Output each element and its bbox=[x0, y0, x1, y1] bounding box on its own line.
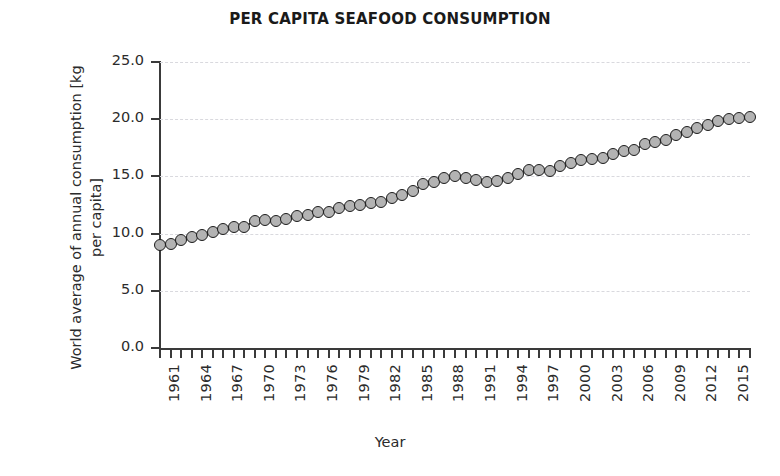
chart-figure: PER CAPITA SEAFOOD CONSUMPTION World ave… bbox=[0, 0, 780, 476]
x-tick-mark bbox=[717, 350, 719, 358]
x-tick-mark bbox=[654, 350, 656, 358]
x-tick-mark bbox=[591, 350, 593, 358]
x-tick-mark bbox=[612, 350, 614, 358]
x-tick-mark bbox=[191, 350, 193, 358]
y-tick-label: 25.0 bbox=[88, 52, 144, 68]
x-tick-mark bbox=[749, 350, 751, 358]
y-tick-label: 20.0 bbox=[88, 109, 144, 125]
x-tick-mark bbox=[433, 350, 435, 358]
x-tick-mark bbox=[623, 350, 625, 358]
x-tick-mark bbox=[602, 350, 604, 358]
x-tick-mark bbox=[549, 350, 551, 358]
x-tick-mark bbox=[170, 350, 172, 358]
x-tick-mark bbox=[359, 350, 361, 358]
x-tick-mark bbox=[212, 350, 214, 358]
y-tick-label: 0.0 bbox=[88, 338, 144, 354]
x-tick-label: 1994 bbox=[514, 364, 530, 402]
x-tick-mark bbox=[328, 350, 330, 358]
x-tick-mark bbox=[380, 350, 382, 358]
x-tick-mark bbox=[296, 350, 298, 358]
data-point bbox=[744, 111, 756, 123]
y-tick-mark bbox=[151, 290, 160, 292]
x-tick-label: 1973 bbox=[292, 364, 308, 402]
x-tick-label: 1985 bbox=[419, 364, 435, 402]
x-tick-mark bbox=[686, 350, 688, 358]
x-tick-mark bbox=[528, 350, 530, 358]
x-tick-mark bbox=[222, 350, 224, 358]
plot-area bbox=[160, 62, 750, 348]
x-tick-label: 1976 bbox=[324, 364, 340, 402]
x-tick-mark bbox=[507, 350, 509, 358]
x-tick-mark bbox=[644, 350, 646, 358]
x-tick-mark bbox=[243, 350, 245, 358]
x-tick-mark bbox=[391, 350, 393, 358]
x-tick-mark bbox=[675, 350, 677, 358]
x-tick-mark bbox=[496, 350, 498, 358]
x-tick-mark bbox=[570, 350, 572, 358]
x-tick-mark bbox=[159, 350, 161, 358]
x-tick-mark bbox=[696, 350, 698, 358]
y-tick-mark bbox=[151, 118, 160, 120]
x-tick-label: 2006 bbox=[640, 364, 656, 402]
y-tick-mark bbox=[151, 233, 160, 235]
x-tick-mark bbox=[338, 350, 340, 358]
x-tick-label: 2015 bbox=[735, 364, 751, 402]
x-tick-label: 1979 bbox=[356, 364, 372, 402]
x-tick-mark bbox=[559, 350, 561, 358]
x-tick-mark bbox=[728, 350, 730, 358]
x-tick-mark bbox=[285, 350, 287, 358]
x-tick-label: 1988 bbox=[450, 364, 466, 402]
x-tick-label: 1967 bbox=[229, 364, 245, 402]
y-tick-label: 15.0 bbox=[88, 166, 144, 182]
x-tick-label: 1991 bbox=[482, 364, 498, 402]
x-tick-mark bbox=[486, 350, 488, 358]
series-line bbox=[160, 62, 750, 348]
x-tick-mark bbox=[201, 350, 203, 358]
x-tick-label: 2009 bbox=[672, 364, 688, 402]
x-tick-label: 1964 bbox=[198, 364, 214, 402]
y-tick-label: 5.0 bbox=[88, 281, 144, 297]
y-tick-mark bbox=[151, 175, 160, 177]
x-tick-mark bbox=[180, 350, 182, 358]
x-tick-label: 2012 bbox=[703, 364, 719, 402]
x-tick-mark bbox=[738, 350, 740, 358]
x-tick-label: 1997 bbox=[545, 364, 561, 402]
x-tick-mark bbox=[443, 350, 445, 358]
x-tick-mark bbox=[349, 350, 351, 358]
y-axis-tick-labels: 0.05.010.015.020.025.0 bbox=[88, 0, 144, 476]
x-tick-mark bbox=[580, 350, 582, 358]
x-tick-mark bbox=[317, 350, 319, 358]
x-axis-title: Year bbox=[0, 434, 780, 450]
y-tick-mark bbox=[151, 347, 160, 349]
x-tick-label: 1961 bbox=[166, 364, 182, 402]
x-tick-mark bbox=[454, 350, 456, 358]
x-tick-mark bbox=[275, 350, 277, 358]
y-tick-mark bbox=[151, 61, 160, 63]
x-tick-mark bbox=[633, 350, 635, 358]
x-tick-mark bbox=[370, 350, 372, 358]
x-tick-label: 1970 bbox=[261, 364, 277, 402]
x-tick-label: 2000 bbox=[577, 364, 593, 402]
x-tick-mark bbox=[412, 350, 414, 358]
x-tick-mark bbox=[475, 350, 477, 358]
x-tick-mark bbox=[517, 350, 519, 358]
x-tick-mark bbox=[307, 350, 309, 358]
x-tick-label: 1982 bbox=[387, 364, 403, 402]
x-tick-mark bbox=[264, 350, 266, 358]
x-tick-mark bbox=[233, 350, 235, 358]
x-tick-mark bbox=[538, 350, 540, 358]
x-tick-mark bbox=[665, 350, 667, 358]
x-tick-mark bbox=[707, 350, 709, 358]
x-tick-mark bbox=[465, 350, 467, 358]
data-series-seafood-consumption bbox=[160, 62, 750, 348]
x-tick-label: 2003 bbox=[609, 364, 625, 402]
y-tick-label: 10.0 bbox=[88, 224, 144, 240]
x-tick-mark bbox=[254, 350, 256, 358]
x-tick-mark bbox=[422, 350, 424, 358]
x-tick-mark bbox=[401, 350, 403, 358]
